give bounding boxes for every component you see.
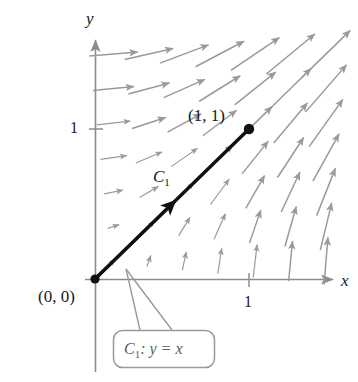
callout-equation-label: C1: y = x [124, 340, 183, 360]
curve-end-point-dot [244, 124, 254, 134]
field-arrow [97, 121, 131, 125]
field-arrow [214, 214, 225, 240]
field-arrow [147, 255, 151, 266]
field-arrow [277, 138, 303, 178]
field-arrow [281, 172, 300, 212]
origin-point-label: (0, 0) [38, 288, 75, 305]
field-arrow [324, 237, 328, 284]
field-arrow [199, 76, 240, 102]
curve-c1-label-subscript: 1 [164, 176, 170, 188]
y-axis-label: y [86, 10, 94, 27]
field-arrow [125, 48, 174, 59]
field-arrow [128, 83, 169, 94]
curve-c1-direction-arrow [95, 201, 175, 279]
endpoint-point-label: (1, 1) [188, 107, 225, 124]
field-arrow [179, 217, 190, 235]
x-axis-label: x [341, 272, 349, 289]
field-arrow [218, 248, 222, 274]
field-arrow [317, 168, 336, 215]
field-arrow [302, 30, 351, 77]
field-arrow [104, 190, 123, 194]
field-arrow [93, 87, 134, 91]
field-arrow [231, 38, 280, 71]
field-arrow [266, 34, 315, 74]
vector-field-figure: y x 1 1 (0, 0) (1, 1) C1 C1: y = x [0, 0, 358, 382]
field-arrow [195, 41, 244, 67]
field-arrow [309, 99, 343, 146]
field-arrow [246, 176, 265, 209]
callout-equation-text: : y = x [140, 340, 182, 357]
field-arrow [108, 225, 119, 229]
field-arrow [164, 79, 205, 97]
y-axis-tick-label-1: 1 [70, 120, 78, 136]
field-arrow [320, 203, 331, 250]
callout-curve-name: C [124, 340, 135, 357]
field-arrow [182, 252, 186, 270]
field-arrow [89, 52, 138, 56]
field-arrow [132, 117, 166, 128]
field-arrow [305, 65, 346, 112]
field-arrow [274, 103, 308, 143]
x-axis-tick-label-1: 1 [244, 294, 252, 310]
field-arrow [136, 152, 162, 163]
field-arrow [289, 241, 293, 281]
field-arrow [171, 148, 197, 166]
field-arrow [313, 134, 339, 181]
field-arrow [250, 210, 261, 243]
field-arrow [210, 179, 229, 205]
plot-canvas [0, 0, 358, 382]
curve-c1-label-text: C [153, 167, 164, 186]
axes-group [85, 40, 333, 372]
field-arrow [235, 72, 276, 105]
field-arrow [253, 245, 257, 278]
curve-start-point-dot [90, 274, 99, 283]
field-arrow [100, 156, 126, 160]
curve-c1-label: C1 [153, 168, 170, 188]
field-arrow [242, 141, 268, 174]
field-arrow [160, 45, 209, 63]
curve-c1-group [90, 124, 254, 284]
field-arrow [285, 207, 296, 247]
